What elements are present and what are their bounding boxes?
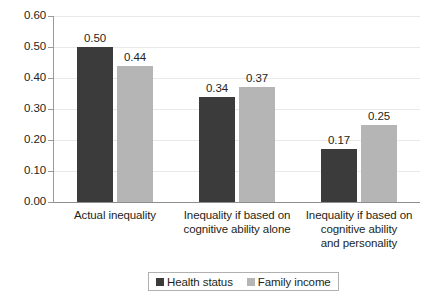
bar-chart: 0.600.500.400.300.200.100.00 0.500.440.3… xyxy=(0,0,434,304)
y-tick-label: 0.30 xyxy=(2,103,46,115)
category-label: Inequality if based oncognitive ability … xyxy=(170,208,304,236)
bar-value-label: 0.44 xyxy=(109,51,161,63)
category-label-line: cognitive ability alone xyxy=(170,222,304,236)
y-tick-mark xyxy=(48,78,53,79)
gridline xyxy=(54,16,420,17)
category-label: Actual inequality xyxy=(48,208,182,222)
y-tick-mark xyxy=(48,202,53,203)
y-tick-label-wrap: 0.60 xyxy=(0,10,46,22)
y-tick-label-wrap: 0.40 xyxy=(0,72,46,84)
bar xyxy=(77,47,113,202)
y-tick-mark xyxy=(48,171,53,172)
legend-swatch-icon-family-income xyxy=(247,278,255,286)
category-label-line: cognitive ability xyxy=(292,222,426,236)
y-tick-label: 0.00 xyxy=(2,196,46,208)
category-label-line: Actual inequality xyxy=(48,208,182,222)
legend-label-family-income: Family income xyxy=(258,276,331,288)
bar-value-label: 0.50 xyxy=(69,32,121,44)
y-tick-mark xyxy=(48,109,53,110)
bar xyxy=(321,149,357,202)
category-label-line: and personality xyxy=(292,236,426,250)
y-tick-mark xyxy=(48,16,53,17)
legend-item-health-status: Health status xyxy=(156,276,233,288)
bar xyxy=(199,97,235,202)
bar-value-label: 0.17 xyxy=(313,134,365,146)
bar-value-label: 0.37 xyxy=(231,72,283,84)
y-tick-label: 0.50 xyxy=(2,41,46,53)
bar xyxy=(117,66,153,202)
y-tick-label: 0.10 xyxy=(2,165,46,177)
x-axis-baseline xyxy=(54,202,420,203)
legend-label-health-status: Health status xyxy=(167,276,233,288)
y-tick-mark xyxy=(48,47,53,48)
y-tick-label-wrap: 0.00 xyxy=(0,196,46,208)
y-tick-label-wrap: 0.10 xyxy=(0,165,46,177)
chart-legend: Health status Family income xyxy=(148,272,339,291)
category-label: Inequality if based oncognitive abilitya… xyxy=(292,208,426,250)
y-tick-label: 0.60 xyxy=(2,10,46,22)
bar xyxy=(361,125,397,203)
y-tick-label-wrap: 0.50 xyxy=(0,41,46,53)
y-tick-label: 0.40 xyxy=(2,72,46,84)
bar xyxy=(239,87,275,202)
category-label-line: Inequality if based on xyxy=(292,208,426,222)
y-tick-mark xyxy=(48,140,53,141)
y-tick-label: 0.20 xyxy=(2,134,46,146)
y-tick-label-wrap: 0.20 xyxy=(0,134,46,146)
category-label-line: Inequality if based on xyxy=(170,208,304,222)
bar-value-label: 0.25 xyxy=(353,110,405,122)
legend-swatch-icon-health-status xyxy=(156,278,164,286)
legend-item-family-income: Family income xyxy=(247,276,331,288)
y-tick-label-wrap: 0.30 xyxy=(0,103,46,115)
